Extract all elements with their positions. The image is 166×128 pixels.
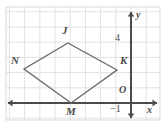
vertex-label-j: J <box>62 25 68 36</box>
coordinate-plane-canvas <box>0 0 166 128</box>
vertex-label-m: M <box>66 106 76 117</box>
vertex-label-n: N <box>11 55 19 66</box>
y-axis-arrow-up <box>128 12 135 17</box>
x-axis-tick-label-neg1: −1 <box>110 104 121 114</box>
origin-label: O <box>119 85 126 95</box>
y-axis-label: y <box>136 10 140 20</box>
x-axis-label: x <box>147 105 152 115</box>
geometry-figure: J K M N x y O 4 −1 <box>0 0 166 128</box>
vertex-label-k: K <box>120 55 127 66</box>
x-axis-arrow-left <box>8 100 13 107</box>
y-axis-arrow-down <box>128 114 135 119</box>
y-axis-tick-label-4: 4 <box>115 33 120 43</box>
x-axis-arrow-right <box>153 100 158 107</box>
